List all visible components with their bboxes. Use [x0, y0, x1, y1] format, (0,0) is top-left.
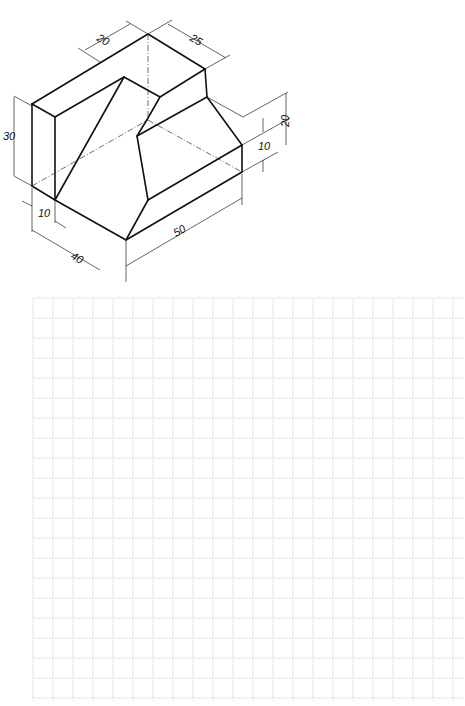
dim-front-width: 40 — [69, 249, 86, 266]
edge-sloped-face — [55, 77, 124, 200]
edge-base-front — [32, 172, 242, 240]
edge-notch-down — [137, 136, 148, 200]
dim-right-height: 20 — [279, 114, 291, 128]
hidden-back-right — [148, 120, 242, 172]
isometric-drawing: 20 25 30 20 10 10 40 50 — [0, 0, 465, 706]
edge-shoulder-vertical — [205, 69, 207, 97]
edge-left-inner-top — [32, 69, 205, 117]
hidden-back-left — [32, 120, 148, 186]
dim-top-right-depth: 25 — [187, 31, 205, 48]
sketch-grid — [33, 298, 465, 701]
edge-left-top — [32, 34, 205, 104]
edge-notch — [137, 97, 242, 145]
edge-step-top — [148, 145, 242, 200]
object-edges — [32, 34, 242, 240]
dim-right-length: 50 — [171, 222, 188, 239]
dim-right-step: 10 — [258, 140, 271, 152]
dim-bottom-left-offset: 10 — [38, 207, 51, 219]
dim-top-left-depth: 20 — [94, 31, 112, 48]
dim-left-height: 30 — [3, 130, 16, 142]
dimension-labels: 20 25 30 20 10 10 40 50 — [3, 31, 291, 266]
